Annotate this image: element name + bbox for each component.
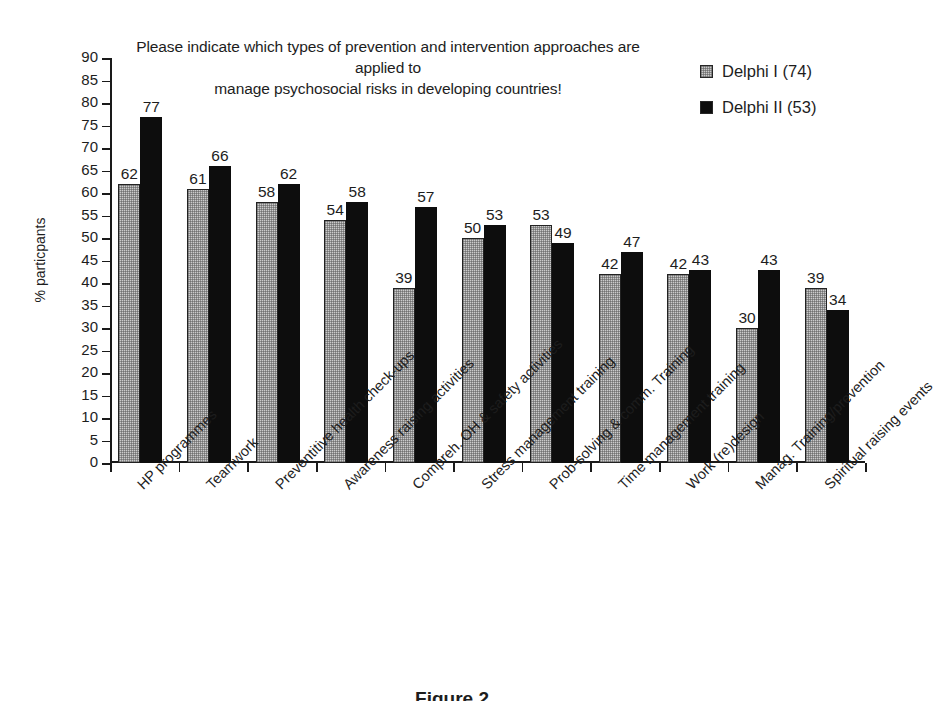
bar-value-label: 53	[486, 206, 503, 224]
bar-value-label: 34	[829, 291, 846, 309]
y-tick-label: 45	[81, 251, 98, 268]
y-tick-label: 75	[81, 116, 98, 133]
bar-value-label: 62	[280, 165, 297, 183]
bar-value-label: 77	[143, 98, 160, 116]
bar-value-label: 30	[738, 309, 755, 327]
bar-value-label: 58	[349, 183, 366, 201]
y-tick-mark	[102, 261, 110, 263]
bar-value-label: 54	[327, 201, 344, 219]
y-tick-label: 55	[81, 206, 98, 223]
y-tick-label: 40	[81, 273, 98, 290]
bar-value-label: 58	[258, 183, 275, 201]
bar-delphi-2: 47	[621, 252, 643, 464]
x-tick-mark	[385, 463, 387, 472]
bar-delphi-2: 53	[484, 225, 506, 464]
y-tick-label: 60	[81, 183, 98, 200]
bar-value-label: 43	[692, 251, 709, 269]
y-tick-mark	[102, 306, 110, 308]
bar-value-label: 53	[533, 206, 550, 224]
bar-value-label: 47	[623, 233, 640, 251]
y-tick-label: 0	[90, 453, 98, 470]
y-tick-mark	[102, 351, 110, 353]
y-tick-mark	[102, 216, 110, 218]
y-tick-label: 85	[81, 71, 98, 88]
y-tick-mark	[102, 373, 110, 375]
x-tick-mark	[179, 463, 181, 472]
bar-value-label: 39	[395, 269, 412, 287]
y-tick-label: 50	[81, 228, 98, 245]
x-tick-mark	[659, 463, 661, 472]
figure-caption: Figure 2	[0, 688, 904, 701]
bar-delphi-1: 62	[118, 184, 140, 463]
x-tick-mark	[247, 463, 249, 472]
bar-value-label: 50	[464, 219, 481, 237]
bar-delphi-2: 43	[758, 270, 780, 464]
y-tick-mark	[102, 193, 110, 195]
bar-value-label: 61	[189, 170, 206, 188]
bar-delphi-2: 43	[689, 270, 711, 464]
y-tick-label: 15	[81, 386, 98, 403]
y-tick-mark	[102, 463, 110, 465]
y-tick-mark	[102, 126, 110, 128]
y-tick-mark	[102, 418, 110, 420]
x-tick-mark	[110, 463, 112, 472]
y-axis-title-text: % particpants	[32, 180, 48, 340]
y-tick-label: 20	[81, 363, 98, 380]
bar-value-label: 66	[211, 147, 228, 165]
x-tick-mark	[522, 463, 524, 472]
bar-delphi-1: 58	[256, 202, 278, 463]
bar-value-label: 39	[807, 269, 824, 287]
bar-delphi-2: 77	[140, 117, 162, 464]
bar-value-label: 42	[670, 255, 687, 273]
y-tick-mark	[102, 396, 110, 398]
bar-value-label: 42	[601, 255, 618, 273]
y-tick-label: 35	[81, 296, 98, 313]
y-tick-label: 65	[81, 161, 98, 178]
y-tick-mark	[102, 238, 110, 240]
bar-value-label: 49	[555, 224, 572, 242]
y-tick-mark	[102, 441, 110, 443]
bar-delphi-2: 62	[278, 184, 300, 463]
y-tick-label: 90	[81, 48, 98, 65]
y-tick-mark	[102, 148, 110, 150]
x-tick-mark	[796, 463, 798, 472]
y-tick-label: 5	[90, 431, 98, 448]
y-tick-label: 30	[81, 318, 98, 335]
x-tick-mark	[453, 463, 455, 472]
y-tick-mark	[102, 171, 110, 173]
x-tick-mark	[728, 463, 730, 472]
x-tick-mark	[316, 463, 318, 472]
y-tick-label: 25	[81, 341, 98, 358]
x-tick-mark	[865, 463, 867, 472]
y-tick-mark	[102, 328, 110, 330]
y-tick-label: 70	[81, 138, 98, 155]
y-tick-label: 80	[81, 93, 98, 110]
y-tick-mark	[102, 81, 110, 83]
y-tick-label: 10	[81, 408, 98, 425]
bar-value-label: 57	[417, 188, 434, 206]
y-axis-line	[110, 58, 112, 463]
bar-value-label: 43	[760, 251, 777, 269]
x-tick-mark	[590, 463, 592, 472]
bar-value-label: 62	[121, 165, 138, 183]
y-tick-mark	[102, 283, 110, 285]
y-axis-title: % particpants	[18, 20, 34, 180]
y-tick-mark	[102, 103, 110, 105]
y-tick-mark	[102, 58, 110, 60]
